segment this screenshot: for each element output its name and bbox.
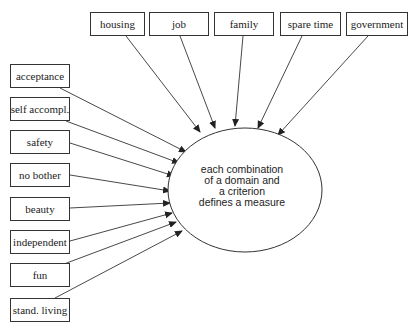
domain-label: housing: [100, 18, 135, 30]
criterion-box-stand-living: stand. living: [11, 299, 70, 322]
domain-arrow: [180, 36, 215, 128]
criterion-box-beauty: beauty: [11, 198, 70, 221]
criterion-arrow: [70, 175, 170, 191]
criterion-label: self accompl.: [11, 103, 70, 115]
domain-label: family: [230, 18, 259, 30]
criterion-label: safety: [27, 136, 54, 148]
domain-box-family: family: [215, 13, 274, 36]
domain-box-government: government: [347, 13, 408, 36]
domain-label: job: [171, 18, 187, 30]
criterion-label: beauty: [25, 203, 55, 215]
measure-ellipse: each combination of a domain and a crite…: [168, 128, 322, 252]
criterion-label: independent: [13, 236, 67, 248]
criterion-box-no-bother: no bother: [11, 164, 70, 187]
domain-box-spare-time: spare time: [281, 13, 341, 36]
criterion-arrow: [66, 121, 179, 163]
domain-criterion-diagram: each combination of a domain and a crite…: [0, 0, 415, 332]
domain-label: government: [351, 18, 404, 30]
criterion-arrow: [70, 203, 170, 208]
criterion-box-acceptance: acceptance: [11, 65, 70, 88]
criterion-arrow: [70, 213, 172, 241]
domain-label: spare time: [288, 18, 334, 30]
domain-box-housing: housing: [91, 13, 145, 36]
criterion-label: stand. living: [13, 304, 68, 316]
domain-arrow: [126, 36, 200, 132]
domain-box-job: job: [150, 13, 209, 36]
domain-arrow: [258, 36, 302, 128]
criterion-label: fun: [33, 269, 48, 281]
criterion-arrow: [55, 231, 182, 298]
criterion-arrow: [70, 143, 174, 176]
domain-arrow: [278, 36, 368, 135]
criterion-box-independent: independent: [11, 231, 70, 254]
domain-arrow: [235, 36, 243, 126]
ellipse-line-4: defines a measure: [199, 196, 286, 208]
criterion-label: no bother: [19, 169, 61, 181]
domain-boxes: housingjobfamilyspare timegovernment: [91, 13, 408, 36]
criterion-boxes: acceptanceself accompl.safetyno botherbe…: [11, 65, 70, 322]
criterion-box-safety: safety: [11, 131, 70, 154]
criterion-box-fun: fun: [11, 264, 70, 287]
criterion-box-self-accompl-: self accompl.: [11, 98, 70, 121]
criterion-label: acceptance: [16, 70, 64, 82]
